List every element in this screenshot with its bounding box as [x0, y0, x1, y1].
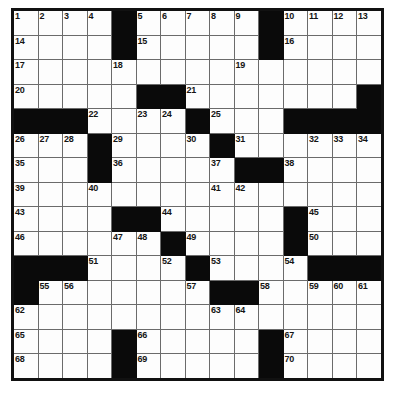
- crossword-cell[interactable]: 20: [13, 84, 39, 109]
- crossword-cell[interactable]: [332, 354, 357, 380]
- crossword-cell[interactable]: [259, 182, 284, 207]
- crossword-cell[interactable]: 17: [13, 60, 39, 85]
- crossword-cell[interactable]: [38, 60, 63, 85]
- crossword-cell[interactable]: [234, 256, 259, 281]
- crossword-cell[interactable]: [136, 256, 161, 281]
- crossword-cell[interactable]: [234, 109, 259, 134]
- crossword-cell[interactable]: [161, 60, 186, 85]
- crossword-cell[interactable]: [136, 182, 161, 207]
- crossword-cell[interactable]: 2: [38, 10, 63, 36]
- crossword-cell[interactable]: [357, 35, 383, 60]
- crossword-cell[interactable]: [63, 329, 88, 354]
- crossword-cell[interactable]: [308, 354, 333, 380]
- crossword-cell[interactable]: 21: [185, 84, 210, 109]
- crossword-cell[interactable]: 13: [357, 10, 383, 36]
- crossword-cell[interactable]: 7: [185, 10, 210, 36]
- crossword-cell[interactable]: 51: [87, 256, 112, 281]
- crossword-cell[interactable]: [283, 182, 308, 207]
- crossword-cell[interactable]: [185, 329, 210, 354]
- crossword-cell[interactable]: 62: [13, 305, 39, 330]
- crossword-cell[interactable]: [259, 305, 284, 330]
- crossword-cell[interactable]: [234, 354, 259, 380]
- crossword-cell[interactable]: [185, 207, 210, 232]
- crossword-cell[interactable]: 65: [13, 329, 39, 354]
- crossword-cell[interactable]: 66: [136, 329, 161, 354]
- crossword-cell[interactable]: [332, 84, 357, 109]
- crossword-cell[interactable]: [161, 35, 186, 60]
- crossword-cell[interactable]: [210, 60, 235, 85]
- crossword-cell[interactable]: 70: [283, 354, 308, 380]
- crossword-cell[interactable]: [332, 231, 357, 256]
- crossword-cell[interactable]: [259, 84, 284, 109]
- crossword-cell[interactable]: 59: [308, 280, 333, 305]
- crossword-cell[interactable]: 40: [87, 182, 112, 207]
- crossword-cell[interactable]: 43: [13, 207, 39, 232]
- crossword-cell[interactable]: 14: [13, 35, 39, 60]
- crossword-cell[interactable]: 48: [136, 231, 161, 256]
- crossword-cell[interactable]: 53: [210, 256, 235, 281]
- crossword-cell[interactable]: 26: [13, 133, 39, 158]
- crossword-cell[interactable]: 9: [234, 10, 259, 36]
- crossword-cell[interactable]: 10: [283, 10, 308, 36]
- crossword-cell[interactable]: 28: [63, 133, 88, 158]
- crossword-cell[interactable]: [210, 207, 235, 232]
- crossword-cell[interactable]: 54: [283, 256, 308, 281]
- crossword-cell[interactable]: [234, 231, 259, 256]
- crossword-cell[interactable]: [87, 305, 112, 330]
- crossword-cell[interactable]: [210, 329, 235, 354]
- crossword-cell[interactable]: [357, 231, 383, 256]
- crossword-cell[interactable]: 42: [234, 182, 259, 207]
- crossword-cell[interactable]: [283, 280, 308, 305]
- crossword-cell[interactable]: 46: [13, 231, 39, 256]
- crossword-cell[interactable]: [259, 231, 284, 256]
- crossword-cell[interactable]: [308, 84, 333, 109]
- crossword-cell[interactable]: [283, 305, 308, 330]
- crossword-cell[interactable]: 37: [210, 158, 235, 183]
- crossword-cell[interactable]: 29: [112, 133, 137, 158]
- crossword-cell[interactable]: 57: [185, 280, 210, 305]
- crossword-cell[interactable]: 69: [136, 354, 161, 380]
- crossword-cell[interactable]: [357, 305, 383, 330]
- crossword-cell[interactable]: 38: [283, 158, 308, 183]
- crossword-cell[interactable]: 61: [357, 280, 383, 305]
- crossword-cell[interactable]: 6: [161, 10, 186, 36]
- crossword-cell[interactable]: [210, 354, 235, 380]
- crossword-cell[interactable]: 15: [136, 35, 161, 60]
- crossword-cell[interactable]: [308, 158, 333, 183]
- crossword-cell[interactable]: 58: [259, 280, 284, 305]
- crossword-cell[interactable]: [87, 35, 112, 60]
- crossword-cell[interactable]: [332, 35, 357, 60]
- crossword-cell[interactable]: 50: [308, 231, 333, 256]
- crossword-cell[interactable]: 4: [87, 10, 112, 36]
- crossword-cell[interactable]: [332, 182, 357, 207]
- crossword-cell[interactable]: [210, 84, 235, 109]
- crossword-grid[interactable]: 1234567891011121314151617181920212223242…: [11, 8, 384, 381]
- crossword-cell[interactable]: 60: [332, 280, 357, 305]
- crossword-cell[interactable]: [38, 354, 63, 380]
- crossword-cell[interactable]: 24: [161, 109, 186, 134]
- crossword-cell[interactable]: [234, 207, 259, 232]
- crossword-cell[interactable]: 36: [112, 158, 137, 183]
- crossword-cell[interactable]: [234, 329, 259, 354]
- crossword-cell[interactable]: [210, 231, 235, 256]
- crossword-cell[interactable]: [259, 60, 284, 85]
- crossword-cell[interactable]: 5: [136, 10, 161, 36]
- crossword-cell[interactable]: [357, 329, 383, 354]
- crossword-cell[interactable]: [136, 305, 161, 330]
- crossword-cell[interactable]: [38, 35, 63, 60]
- crossword-cell[interactable]: 52: [161, 256, 186, 281]
- crossword-cell[interactable]: [63, 182, 88, 207]
- crossword-cell[interactable]: [63, 305, 88, 330]
- crossword-cell[interactable]: [283, 84, 308, 109]
- crossword-cell[interactable]: [136, 60, 161, 85]
- crossword-cell[interactable]: 49: [185, 231, 210, 256]
- crossword-cell[interactable]: [38, 305, 63, 330]
- crossword-cell[interactable]: 27: [38, 133, 63, 158]
- crossword-cell[interactable]: [332, 207, 357, 232]
- crossword-cell[interactable]: 68: [13, 354, 39, 380]
- crossword-cell[interactable]: [63, 158, 88, 183]
- crossword-cell[interactable]: [112, 305, 137, 330]
- crossword-cell[interactable]: [357, 60, 383, 85]
- crossword-cell[interactable]: [357, 207, 383, 232]
- crossword-cell[interactable]: [185, 182, 210, 207]
